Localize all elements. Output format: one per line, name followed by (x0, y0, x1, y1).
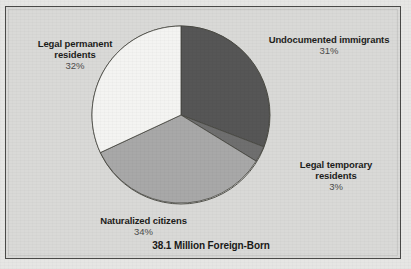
pie-label-naturalized-citizens: Naturalized citizens 34% (66, 215, 221, 237)
pie-label-legal-temporary-residents-title-line1: Legal temporary (264, 159, 408, 170)
pie-label-undocumented-immigrants-percent: 31% (249, 45, 409, 56)
pie-label-undocumented-immigrants-title: Undocumented immigrants (249, 34, 409, 45)
figure-root: Undocumented immigrants 31% Legal perman… (0, 0, 411, 269)
pie-label-legal-permanent-residents-title-line1: Legal permanent (14, 38, 136, 49)
pie-label-legal-permanent-residents-percent: 32% (14, 60, 136, 71)
chart-caption: 38.1 Million Foreign-Born (121, 240, 301, 251)
pie-label-legal-temporary-residents-percent: 3% (264, 181, 408, 192)
pie-label-legal-permanent-residents-title-line2: residents (14, 49, 136, 60)
chart-frame: Undocumented immigrants 31% Legal perman… (5, 6, 401, 259)
pie-label-legal-permanent-residents: Legal permanent residents 32% (14, 38, 136, 72)
pie-label-undocumented-immigrants: Undocumented immigrants 31% (249, 34, 409, 56)
pie-label-legal-temporary-residents: Legal temporary residents 3% (264, 159, 408, 193)
pie-label-naturalized-citizens-percent: 34% (66, 226, 221, 237)
pie-label-legal-temporary-residents-title-line2: residents (264, 170, 408, 181)
pie-label-naturalized-citizens-title: Naturalized citizens (66, 215, 221, 226)
